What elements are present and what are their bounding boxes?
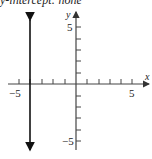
x-tick-label-5: 5 xyxy=(129,87,135,99)
x-tick-label-neg5: −5 xyxy=(9,87,21,99)
coordinate-plane: x y −5 5 5 −5 xyxy=(0,0,152,159)
y-axis-label: y xyxy=(65,9,71,20)
y-tick-label-5: 5 xyxy=(67,21,73,33)
x-axis-label: x xyxy=(144,71,150,82)
y-tick-label-neg5: −5 xyxy=(62,135,74,147)
